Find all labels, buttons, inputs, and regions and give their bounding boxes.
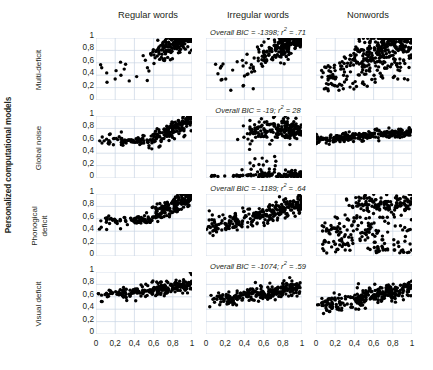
y-tick-label: 0,8 — [83, 122, 94, 130]
y-tick-label: 0,6 — [83, 213, 94, 221]
scatter-panel-visual-deficit-irregular-words — [206, 272, 302, 334]
annotation-superscript: 2 — [284, 26, 287, 32]
scatter-points — [210, 116, 302, 178]
row-label-visual-deficit-text: Visual deficit — [34, 282, 44, 327]
x-tick-label: 0,2 — [219, 340, 230, 348]
row-label-line: Multi-deficit — [34, 50, 44, 90]
plot-gridlines — [316, 116, 412, 178]
y-tick-label: 0,8 — [83, 44, 94, 52]
scatter-panel-phonogical-deficit-nonwords — [316, 194, 412, 256]
row-label-line: deficit — [39, 206, 49, 246]
scatter-plot-canvas — [96, 194, 192, 256]
annotation-superscript: 2 — [283, 182, 286, 188]
scatter-plot-canvas — [96, 116, 192, 178]
scatter-plot-canvas — [206, 38, 302, 100]
x-tick-label: 0,6 — [368, 340, 379, 348]
row-label-phonogical-deficit-text: Phonogicaldeficit — [30, 206, 49, 246]
y-tick-label: 0 — [89, 172, 94, 180]
scatter-points — [97, 272, 192, 303]
row-label-visual-deficit: Visual deficit — [22, 268, 56, 340]
scatter-panel-global-noise-irregular-words — [206, 116, 302, 178]
x-tick-label: 0,2 — [329, 340, 340, 348]
scatter-points — [208, 276, 302, 309]
row-label-line: Global noise — [34, 126, 44, 170]
y-tick-label: 0,4 — [83, 303, 94, 311]
y-tick-label: 1 — [89, 110, 94, 118]
y-tick-label: 0,2 — [83, 238, 94, 246]
y-tick-label: 0,6 — [83, 57, 94, 65]
scatter-plot-canvas — [96, 38, 192, 100]
scatter-plot-canvas — [316, 272, 412, 334]
scatter-points — [206, 194, 302, 237]
x-axis-ticks-irregular-words: 00,20,40,60,81 — [206, 340, 302, 350]
x-tick-label: 1 — [190, 340, 195, 348]
scatter-plot-canvas — [206, 194, 302, 256]
x-tick-label: 0,4 — [129, 340, 140, 348]
x-tick-label: 0,4 — [239, 340, 250, 348]
column-header-irregular-words: Irregular words — [208, 10, 308, 20]
y-tick-label: 1 — [89, 32, 94, 40]
column-header-regular-words: Regular words — [98, 10, 198, 20]
y-tick-label: 0,8 — [83, 200, 94, 208]
scatter-panel-phonogical-deficit-irregular-words — [206, 194, 302, 256]
scatter-panel-global-noise-regular-words — [96, 116, 192, 178]
y-tick-label: 0 — [89, 250, 94, 258]
scatter-panel-multi-deficit-regular-words — [96, 38, 192, 100]
scatter-points — [98, 116, 192, 151]
scatter-panel-multi-deficit-irregular-words — [206, 38, 302, 100]
row-label-phonogical-deficit: Phonogicaldeficit — [22, 190, 56, 262]
row-label-global-noise-text: Global noise — [34, 126, 44, 170]
x-tick-label: 0,6 — [148, 340, 159, 348]
annotation-superscript: 2 — [280, 104, 283, 110]
y-tick-label: 0 — [89, 94, 94, 102]
annotation-bic-row-4: Overall BIC = -1074; r2 = .59 — [188, 260, 328, 271]
scatter-panel-global-noise-nonwords — [316, 116, 412, 178]
y-tick-label: 0,4 — [83, 147, 94, 155]
scatter-panel-multi-deficit-nonwords — [316, 38, 412, 100]
y-tick-label: 0,2 — [83, 160, 94, 168]
group-axis-label-text: Personalized computational models — [4, 97, 13, 233]
column-header-nonwords: Nonwords — [318, 10, 418, 20]
annotation-bic-row-1: Overall BIC = -1398; r2 = .71 — [188, 26, 328, 37]
x-tick-label: 0 — [314, 340, 319, 348]
x-tick-label: 0,8 — [277, 340, 288, 348]
scatter-points — [99, 38, 192, 84]
scatter-points — [320, 38, 412, 92]
y-tick-label: 0,2 — [83, 316, 94, 324]
x-axis-ticks-nonwords: 00,20,40,60,81 — [316, 340, 412, 350]
annotation-bic-row-2: Overall BIC = -19; r2 = 28 — [188, 104, 328, 115]
y-tick-label: 0,2 — [83, 82, 94, 90]
x-tick-label: 0,4 — [349, 340, 360, 348]
y-tick-label: 0,6 — [83, 135, 94, 143]
row-label-multi-deficit-text: Multi-deficit — [34, 50, 44, 90]
scatter-plot-canvas — [206, 116, 302, 178]
scatter-points — [316, 279, 412, 315]
scatter-points — [316, 126, 412, 146]
x-tick-label: 1 — [410, 340, 415, 348]
plot-gridlines — [96, 272, 192, 334]
y-tick-label: 0,4 — [83, 225, 94, 233]
x-tick-label: 0,8 — [387, 340, 398, 348]
y-tick-label: 1 — [89, 188, 94, 196]
scatter-plot-canvas — [206, 272, 302, 334]
scatter-plot-canvas — [316, 194, 412, 256]
scatter-points — [98, 194, 192, 231]
row-label-line: Visual deficit — [34, 282, 44, 327]
row-label-line: Phonogical — [30, 206, 40, 246]
y-tick-label: 0,8 — [83, 278, 94, 286]
x-tick-label: 0,2 — [109, 340, 120, 348]
annotation-superscript: 2 — [284, 260, 287, 266]
scatter-points — [320, 194, 412, 255]
y-tick-label: 0,6 — [83, 291, 94, 299]
scatter-plot-canvas — [316, 116, 412, 178]
scatter-plot-canvas — [316, 38, 412, 100]
y-tick-label: 1 — [89, 266, 94, 274]
y-tick-label: 0,4 — [83, 69, 94, 77]
scatter-panel-visual-deficit-nonwords — [316, 272, 412, 334]
scatter-panel-visual-deficit-regular-words — [96, 272, 192, 334]
y-tick-label: 0 — [89, 328, 94, 336]
x-axis-ticks-regular-words: 00,20,40,60,81 — [96, 340, 192, 350]
group-axis-label: Personalized computational models — [0, 40, 16, 290]
scatter-panel-phonogical-deficit-regular-words — [96, 194, 192, 256]
x-tick-label: 0,8 — [167, 340, 178, 348]
